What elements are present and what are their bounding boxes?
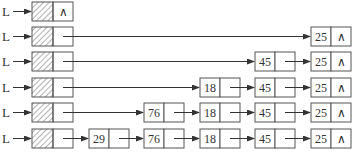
node-value: 76 bbox=[148, 106, 160, 120]
node-value: 25 bbox=[315, 132, 327, 146]
node-value: 29 bbox=[93, 132, 105, 146]
list-row: L25∧ bbox=[2, 27, 351, 46]
null-symbol: ∧ bbox=[337, 81, 346, 95]
head-node-hatched-cell bbox=[32, 78, 53, 97]
list-row: L2976184525∧ bbox=[2, 129, 351, 148]
null-symbol: ∧ bbox=[337, 132, 346, 146]
linked-list-diagram: L∧L25∧L4525∧L184525∧L76184525∧L297618452… bbox=[0, 0, 353, 159]
head-node-hatched-cell bbox=[32, 103, 53, 122]
head-pointer-label: L bbox=[2, 54, 10, 69]
head-pointer-label: L bbox=[2, 4, 10, 19]
node-value: 25 bbox=[315, 30, 327, 44]
node-value: 76 bbox=[148, 132, 160, 146]
node-value: 45 bbox=[259, 55, 271, 69]
null-symbol: ∧ bbox=[337, 55, 346, 69]
head-node-hatched-cell bbox=[32, 129, 53, 148]
head-pointer-label: L bbox=[2, 80, 10, 95]
node-value: 18 bbox=[204, 106, 216, 120]
head-node-hatched-cell bbox=[32, 52, 53, 71]
node-value: 25 bbox=[315, 106, 327, 120]
head-node-hatched-cell bbox=[32, 27, 53, 46]
node-value: 45 bbox=[259, 132, 271, 146]
head-pointer-label: L bbox=[2, 29, 10, 44]
null-symbol: ∧ bbox=[337, 30, 346, 44]
node-value: 25 bbox=[315, 81, 327, 95]
null-symbol: ∧ bbox=[337, 106, 346, 120]
list-row: L4525∧ bbox=[2, 52, 351, 71]
node-value: 45 bbox=[259, 81, 271, 95]
list-row: L76184525∧ bbox=[2, 103, 351, 122]
null-symbol: ∧ bbox=[59, 5, 68, 19]
head-node-hatched-cell bbox=[32, 2, 53, 21]
node-value: 25 bbox=[315, 55, 327, 69]
node-value: 18 bbox=[204, 81, 216, 95]
list-row: L∧ bbox=[2, 2, 73, 21]
head-pointer-label: L bbox=[2, 105, 10, 120]
head-pointer-label: L bbox=[2, 131, 10, 146]
list-row: L184525∧ bbox=[2, 78, 351, 97]
node-value: 18 bbox=[204, 132, 216, 146]
node-value: 45 bbox=[259, 106, 271, 120]
